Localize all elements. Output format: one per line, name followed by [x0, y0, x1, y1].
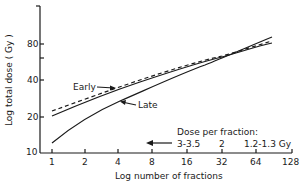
y-tick-label-10: 10	[26, 147, 37, 157]
y-tick-label-40: 40	[27, 75, 38, 85]
x-tick-label-128: 128	[282, 157, 299, 167]
dpf-value-low: 1.2-1.3 Gy	[244, 139, 291, 149]
dose-arrowhead-icon	[146, 140, 153, 146]
y-tick-label-80: 80	[27, 39, 38, 49]
early-label: Early	[73, 82, 96, 92]
x-tick-label-8: 8	[149, 157, 155, 167]
dose-per-fraction-label: Dose per fraction:	[177, 127, 258, 137]
x-tick-label-2: 2	[82, 157, 88, 167]
x-tick-label-1: 1	[49, 157, 55, 167]
dpf-value-high: 3-3.5	[177, 139, 200, 149]
y-axis-title: Log total dose ( Gy )	[4, 34, 14, 126]
x-tick-label-16: 16	[181, 157, 192, 167]
x-tick-label-32: 32	[216, 157, 227, 167]
dpf-value-mid: 2	[219, 139, 225, 149]
x-tick-label-4: 4	[115, 157, 121, 167]
early-curve	[52, 43, 272, 116]
y-tick-label-20: 20	[27, 112, 38, 122]
late-label: Late	[138, 100, 158, 110]
x-axis-title: Log number of fractions	[115, 171, 223, 181]
early-dashed-curve	[52, 41, 272, 111]
x-tick-label-64: 64	[250, 157, 261, 167]
